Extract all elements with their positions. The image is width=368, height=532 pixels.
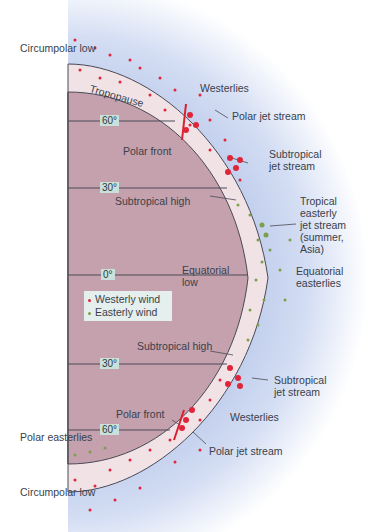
label-subtropical-jet-n-2: jet stream: [269, 160, 315, 172]
lat-label-s30: 30°: [100, 358, 119, 369]
label-equatorial-easterlies-2: easterlies: [296, 277, 341, 289]
label-circumpolar-low-n: Circumpolar low: [20, 42, 95, 54]
label-polar-jet-n: Polar jet stream: [232, 110, 306, 122]
legend-item-westerly: Westerly wind: [88, 293, 168, 306]
label-subtropical-jet-n-1: Subtropical: [269, 148, 322, 160]
westerly-dot-icon: [88, 299, 91, 302]
label-equatorial-low-1: Equatorial: [182, 264, 229, 276]
label-tropical-jet-1: Tropical: [300, 195, 337, 207]
lat-label-n60: 60°: [100, 115, 119, 126]
label-tropical-jet-3: jet stream: [300, 219, 346, 231]
label-polar-front-s: Polar front: [116, 408, 164, 420]
label-westerlies-n: Westerlies: [200, 82, 249, 94]
label-tropical-jet-4: (summer,: [300, 231, 344, 243]
legend-item-easterly: Easterly wind: [88, 306, 168, 319]
label-subtropical-high-n: Subtropical high: [115, 195, 190, 207]
legend: Westerly wind Easterly wind: [84, 291, 172, 321]
easterly-dot-icon: [88, 312, 91, 315]
label-polar-front-n: Polar front: [123, 145, 171, 157]
label-circumpolar-low-s: Circumpolar low: [20, 486, 95, 498]
label-polar-jet-s: Polar jet stream: [209, 445, 283, 457]
atmospheric-circulation-diagram: 60° 30° 0° 30° 60° Circumpolar low Tropo…: [0, 0, 368, 532]
label-subtropical-high-s: Subtropical high: [137, 340, 212, 352]
label-equatorial-easterlies-1: Equatorial: [296, 265, 343, 277]
label-polar-easterlies: Polar easterlies: [20, 431, 92, 443]
lat-label-eq: 0°: [101, 269, 115, 280]
lat-label-s60: 60°: [100, 424, 119, 435]
label-equatorial-low-2: low: [182, 276, 198, 288]
label-westerlies-s: Westerlies: [230, 411, 279, 423]
label-tropical-jet-2: easterly: [300, 207, 337, 219]
label-subtropical-jet-s-1: Subtropical: [274, 374, 327, 386]
label-subtropical-jet-s-2: jet stream: [274, 386, 320, 398]
label-tropical-jet-5: Asia): [300, 243, 324, 255]
lat-label-n30: 30°: [100, 182, 119, 193]
